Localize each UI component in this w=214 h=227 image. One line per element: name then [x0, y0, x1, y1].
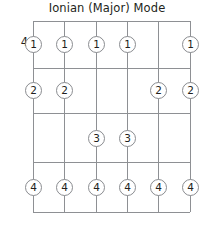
fret-line-2 [33, 113, 190, 114]
fret-line-3 [33, 162, 190, 163]
finger-dot-string1-finger4: 4 [25, 179, 42, 196]
finger-dot-string4-finger3: 3 [119, 130, 136, 147]
fret-line-4 [33, 212, 190, 213]
finger-dot-string3-finger1: 1 [88, 36, 105, 53]
finger-dot-string4-finger1: 1 [119, 36, 136, 53]
finger-dot-string4-finger4: 4 [119, 179, 136, 196]
finger-dot-string2-finger4: 4 [56, 179, 73, 196]
nut-line [33, 21, 190, 22]
finger-dot-string2-finger1: 1 [56, 36, 73, 53]
finger-dot-string1-finger2: 2 [25, 82, 42, 99]
finger-dot-string3-finger3: 3 [88, 130, 105, 147]
finger-dot-string2-finger2: 2 [56, 82, 73, 99]
finger-dot-string5-finger2: 2 [150, 82, 167, 99]
fret-line-1 [33, 68, 190, 69]
finger-dot-string5-finger4: 4 [150, 179, 167, 196]
finger-dot-string1-finger1: 1 [25, 36, 42, 53]
page-title: Ionian (Major) Mode [0, 1, 214, 16]
finger-dot-string6-finger1: 1 [182, 36, 199, 53]
finger-dot-string3-finger4: 4 [88, 179, 105, 196]
fretboard-diagram-screenshot: Ionian (Major) Mode 4 11111222233444444 [0, 0, 214, 227]
fretboard-grid: 11111222233444444 [33, 21, 190, 212]
finger-dot-string6-finger2: 2 [182, 82, 199, 99]
finger-dot-string6-finger4: 4 [182, 179, 199, 196]
